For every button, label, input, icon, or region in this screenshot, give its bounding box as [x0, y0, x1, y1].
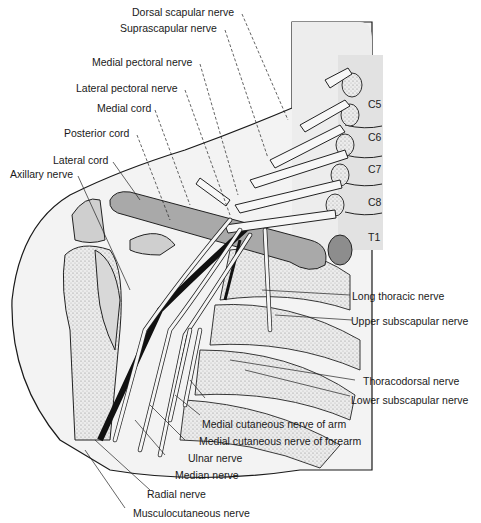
vertebra-label-c8: C8	[368, 196, 381, 208]
label-medial-cutaneous-nerve-of-forearm: Medial cutaneous nerve of forearm	[199, 435, 361, 447]
label-thoracodorsal-nerve: Thoracodorsal nerve	[363, 375, 459, 387]
label-long-thoracic-nerve: Long thoracic nerve	[352, 290, 444, 302]
label-upper-subscapular-nerve: Upper subscapular nerve	[351, 315, 468, 327]
label-medial-pectoral-nerve: Medial pectoral nerve	[92, 56, 192, 68]
label-radial-nerve: Radial nerve	[147, 488, 206, 500]
vertebra-label-c6: C6	[368, 131, 381, 143]
label-medial-cutaneous-nerve-of-arm: Medial cutaneous nerve of arm	[202, 418, 346, 430]
label-axillary-nerve: Axillary nerve	[10, 168, 73, 180]
vertebra-label-c7: C7	[368, 163, 381, 175]
label-lower-subscapular-nerve: Lower subscapular nerve	[351, 394, 468, 406]
clavicle-end	[328, 235, 352, 265]
label-lateral-cord: Lateral cord	[53, 154, 108, 166]
label-medial-cord: Medial cord	[97, 102, 151, 114]
label-musculocutaneous-nerve: Musculocutaneous nerve	[133, 507, 250, 519]
label-median-nerve: Median nerve	[175, 469, 239, 481]
vertebra-label-c5: C5	[368, 98, 381, 110]
label-ulnar-nerve: Ulnar nerve	[188, 452, 242, 464]
vertebra-label-t1: T1	[368, 231, 380, 243]
label-dorsal-scapular-nerve: Dorsal scapular nerve	[132, 6, 234, 18]
label-lateral-pectoral-nerve: Lateral pectoral nerve	[76, 82, 178, 94]
label-suprascapular-nerve: Suprascapular nerve	[120, 22, 217, 34]
label-posterior-cord: Posterior cord	[64, 127, 129, 139]
